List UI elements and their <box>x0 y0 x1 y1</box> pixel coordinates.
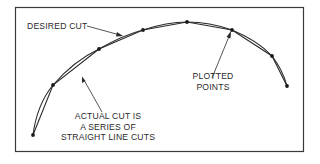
actual-cut-label-line: A SERIES OF <box>56 122 160 133</box>
plotted-point <box>230 28 234 32</box>
plotted-point <box>285 84 289 88</box>
plotted-point <box>31 133 35 137</box>
plotted-point <box>97 47 101 51</box>
plotted-point <box>185 20 189 24</box>
plotted-points-label-line: POINTS <box>190 82 236 93</box>
actual-cut-label: ACTUAL CUT IS A SERIES OF STRAIGHT LINE … <box>56 111 160 143</box>
plotted-point <box>141 28 145 32</box>
diagram-figure: DESIRED CUT PLOTTED POINTS ACTUAL CUT IS… <box>0 0 320 164</box>
actual-cut-leader <box>82 77 102 113</box>
arrowhead-icon <box>116 32 123 37</box>
actual-cut-label-line: STRAIGHT LINE CUTS <box>56 132 160 143</box>
arrowhead-icon <box>227 31 232 39</box>
desired-cut-label: DESIRED CUT <box>27 21 87 32</box>
plotted-point <box>270 54 274 58</box>
plotted-points-label-line: PLOTTED <box>190 71 236 82</box>
actual-cut-label-line: ACTUAL CUT IS <box>56 111 160 122</box>
desired-cut-leader <box>87 26 123 37</box>
plotted-point <box>51 83 55 87</box>
plotted-points-label: PLOTTED POINTS <box>190 71 236 92</box>
